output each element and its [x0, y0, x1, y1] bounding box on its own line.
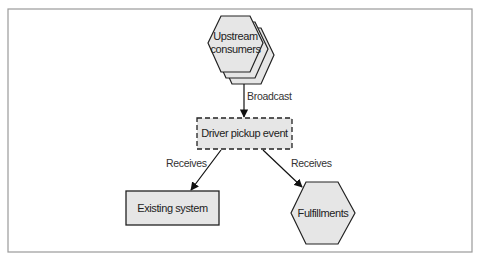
edge-label-receives-left: Receives [166, 157, 207, 169]
node-driver-pickup-event[interactable]: Driver pickup event [197, 118, 292, 149]
edge-receives-left: Receives [166, 150, 221, 190]
upstream-label-line1: Upstream [213, 30, 258, 42]
event-label: Driver pickup event [201, 127, 288, 139]
edge-broadcast: Broadcast [244, 84, 292, 117]
upstream-label-line2: consumers [210, 43, 261, 55]
edge-label-broadcast: Broadcast [247, 90, 292, 102]
fulfillments-label: Fulfillments [298, 207, 350, 219]
diagram-canvas: Upstream consumers Broadcast Driver pick… [0, 0, 479, 258]
node-fulfillments[interactable]: Fulfillments [291, 182, 355, 244]
node-upstream-consumers[interactable]: Upstream consumers [208, 16, 274, 84]
node-existing-system[interactable]: Existing system [126, 191, 219, 225]
arrow-receives-left [191, 150, 221, 190]
existing-label: Existing system [137, 202, 208, 214]
edge-label-receives-right: Receives [291, 157, 332, 169]
